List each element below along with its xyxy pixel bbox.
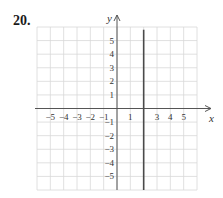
y-tick-label: 2 — [110, 76, 115, 86]
x-tick-label: −2 — [86, 112, 96, 122]
y-tick-label: −3 — [104, 144, 114, 154]
axes: xy — [35, 12, 214, 190]
y-tick-label: −5 — [104, 171, 114, 181]
x-tick-label: 1 — [128, 112, 133, 122]
y-tick-label: 5 — [110, 36, 115, 46]
x-tick-label: 4 — [168, 112, 173, 122]
y-tick-label: −4 — [104, 158, 114, 168]
x-axis-label: x — [208, 112, 214, 124]
x-tick-label: −5 — [46, 112, 56, 122]
y-tick-label: 1 — [110, 90, 115, 100]
x-tick-label: −4 — [59, 112, 69, 122]
y-axis-label: y — [106, 12, 112, 24]
y-tick-label: −2 — [104, 131, 114, 141]
x-tick-label: 5 — [181, 112, 186, 122]
x-tick-label: −3 — [72, 112, 82, 122]
y-tick-label: 3 — [110, 63, 115, 73]
y-tick-label: 4 — [110, 49, 115, 59]
x-tick-label: 3 — [155, 112, 160, 122]
y-tick-label: −1 — [104, 117, 114, 127]
coordinate-graph: xy −5−4−3−2−1134554321−1−2−3−4−5 — [0, 0, 223, 198]
